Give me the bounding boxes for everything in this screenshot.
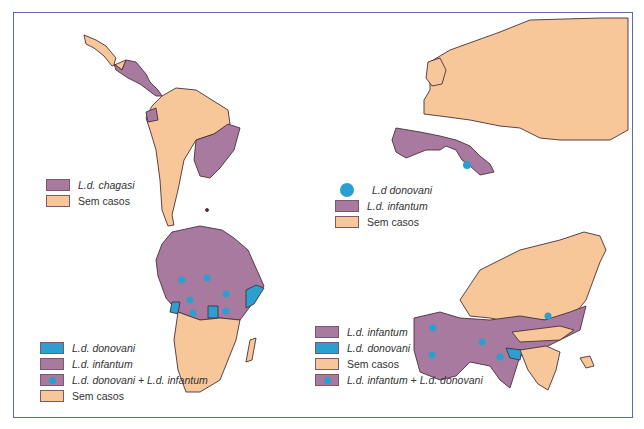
legend-item: L.d. donovani bbox=[40, 340, 208, 356]
japan bbox=[580, 356, 594, 368]
legend-item: L.d. donovani + L.d. infantum bbox=[40, 372, 208, 388]
ecuador-endemic bbox=[146, 108, 158, 122]
legend-item: L.d. infantum bbox=[40, 356, 208, 372]
legend-swatch-both bbox=[40, 374, 64, 386]
legend-swatch-infantum bbox=[315, 326, 339, 338]
legend-swatch-donovani bbox=[315, 342, 339, 354]
africa-dot-4 bbox=[187, 297, 194, 304]
horn-donovani bbox=[246, 285, 264, 308]
madagascar bbox=[246, 338, 256, 362]
europe-donovani-dot bbox=[463, 161, 471, 169]
legend-item: Sem casos bbox=[46, 193, 135, 209]
legend-label: Sem casos bbox=[78, 195, 130, 207]
africa-dot-5 bbox=[190, 310, 197, 317]
legend-item: L.d. donovani bbox=[315, 340, 483, 356]
legend-swatch-no-cases bbox=[40, 390, 64, 402]
se-asia bbox=[520, 346, 560, 390]
legend-item: Sem casos bbox=[315, 356, 483, 372]
legend-asia: L.d. infantumL.d. donovaniSem casosL.d. … bbox=[315, 324, 483, 388]
legend-label: Sem casos bbox=[347, 358, 399, 370]
map-europe bbox=[392, 18, 628, 175]
central-donovani bbox=[208, 306, 218, 318]
legend-label: L.d. infantum + L.d. donovani bbox=[347, 374, 483, 386]
legend-label: L.d. infantum bbox=[347, 326, 408, 338]
legend-americas: L.d. chagasiSem casos bbox=[46, 177, 135, 209]
legend-label: Sem casos bbox=[367, 216, 419, 228]
legend-item: Sem casos bbox=[335, 214, 432, 230]
europe-south-endemic bbox=[392, 128, 494, 175]
legend-label: L.d. chagasi bbox=[78, 179, 135, 191]
legend-item: L.d. infantum + L.d. donovani bbox=[315, 372, 483, 388]
legend-item: L.d. infantum bbox=[335, 198, 432, 214]
legend-label: L.d donovani bbox=[372, 184, 432, 196]
legend-swatch-no-cases bbox=[46, 195, 70, 207]
falklands bbox=[206, 209, 209, 212]
legend-item: L.d. infantum bbox=[315, 324, 483, 340]
legend-item: L.d donovani bbox=[335, 182, 432, 198]
africa-dot-2 bbox=[204, 275, 211, 282]
legend-label: L.d. infantum bbox=[367, 200, 428, 212]
legend-item: L.d. chagasi bbox=[46, 177, 135, 193]
africa-dot-1 bbox=[179, 277, 186, 284]
legend-label: L.d. infantum bbox=[72, 358, 133, 370]
europe-north bbox=[424, 18, 628, 140]
asia-dot-5 bbox=[545, 313, 552, 320]
legend-label: L.d. donovani bbox=[72, 342, 135, 354]
legend-item: Sem casos bbox=[40, 388, 208, 404]
legend-label: L.d. donovani bbox=[347, 342, 410, 354]
mexico bbox=[84, 35, 126, 70]
legend-swatch-dot bbox=[49, 377, 56, 384]
legend-europe: L.d donovaniL.d. infantumSem casos bbox=[335, 182, 432, 230]
legend-swatch-donovani bbox=[340, 183, 354, 197]
legend-swatch-infantum bbox=[335, 200, 359, 212]
asia-dot-4 bbox=[497, 354, 504, 361]
africa-dot-6 bbox=[223, 308, 230, 315]
legend-africa: L.d. donovaniL.d. infantumL.d. donovani … bbox=[40, 340, 208, 404]
africa-dot-3 bbox=[223, 291, 230, 298]
legend-label: Sem casos bbox=[72, 390, 124, 402]
legend-swatch-chagasi bbox=[46, 179, 70, 191]
legend-swatch-no-cases bbox=[315, 358, 339, 370]
legend-swatch-dot bbox=[324, 377, 331, 384]
legend-swatch-both bbox=[315, 374, 339, 386]
legend-swatch-no-cases bbox=[335, 216, 359, 228]
legend-swatch-infantum bbox=[40, 358, 64, 370]
legend-label: L.d. donovani + L.d. infantum bbox=[72, 374, 208, 386]
legend-swatch-donovani bbox=[40, 342, 64, 354]
